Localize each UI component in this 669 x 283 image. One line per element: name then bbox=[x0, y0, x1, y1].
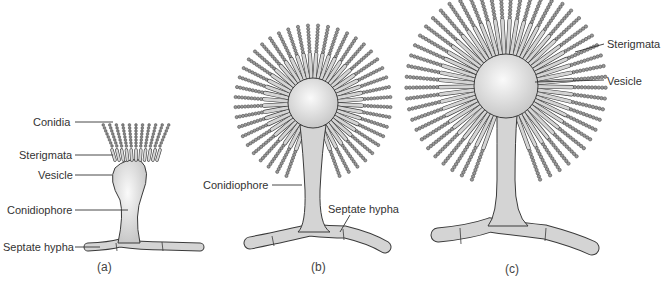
aspergillus-diagram: Conidia Sterigmata Vesicle Conidiophore … bbox=[0, 0, 669, 283]
label-conidiophore-a: Conidiophore bbox=[7, 204, 72, 216]
caption-c: (c) bbox=[505, 262, 519, 276]
label-vesicle-c: Vesicle bbox=[607, 75, 642, 87]
caption-a: (a) bbox=[97, 260, 112, 274]
panel-a-drawing bbox=[88, 124, 200, 251]
label-septate-hypha-b: Septate hypha bbox=[328, 203, 399, 215]
label-conidia-a: Conidia bbox=[33, 116, 70, 128]
label-conidiophore-b: Conidiophore bbox=[203, 179, 268, 191]
diagram-artwork bbox=[0, 0, 669, 283]
label-vesicle-a: Vesicle bbox=[38, 169, 73, 181]
caption-b: (b) bbox=[311, 260, 326, 274]
label-sterigmata-c: Sterigmata bbox=[607, 38, 660, 50]
label-sterigmata-a: Sterigmata bbox=[19, 149, 72, 161]
panel-c-drawing bbox=[405, 0, 608, 248]
label-septate-hypha-a: Septate hypha bbox=[3, 241, 74, 253]
